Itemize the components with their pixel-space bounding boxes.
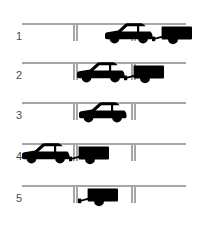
trailer-icon [69,144,111,166]
car-icon [103,20,155,46]
maneuver-diagram: 12345 [0,0,203,231]
car-icon [20,140,72,166]
maneuver-step-row: 3 [0,89,203,135]
car-icon [77,99,129,125]
trailer-icon [152,24,194,46]
car-icon [75,59,127,85]
maneuver-step-row: 4 [0,130,203,176]
trailer-icon [78,186,120,208]
trailer-icon [124,63,166,85]
maneuver-step-row: 5 [0,172,203,218]
